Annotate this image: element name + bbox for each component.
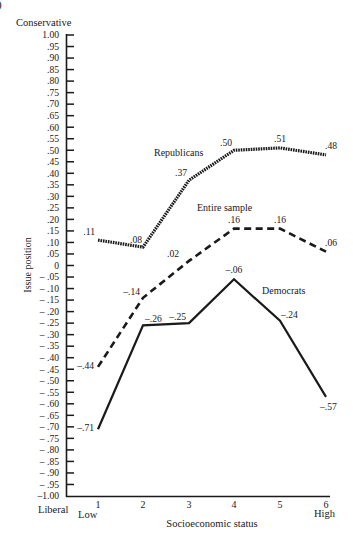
x-high-label: High <box>314 508 336 519</box>
y-tick-label: – .60 <box>39 398 59 409</box>
y-tick-label: .50 <box>47 145 59 156</box>
series-name-label: Republicans <box>154 147 204 158</box>
y-tick-label: .25 <box>47 202 59 213</box>
y-tick-label: – .40 <box>39 352 59 363</box>
x-tick-label: 2 <box>141 499 146 510</box>
data-label: –.25 <box>168 311 186 322</box>
series-name-label: Entire sample <box>197 202 253 213</box>
y-tick-label: 0 <box>54 260 59 271</box>
y-tick-label: – .65 <box>39 410 59 421</box>
y-tick-label: .75 <box>47 87 59 98</box>
y-tick-label: – .05 <box>39 271 59 282</box>
y-tick-label: – .45 <box>39 364 59 375</box>
y-tick-label: – .20 <box>39 306 59 317</box>
y-tick-label: – .15 <box>39 294 59 305</box>
data-label: .50 <box>220 137 232 148</box>
series-name-label: Democrats <box>262 285 305 296</box>
y-tick-label: .20 <box>47 214 59 225</box>
data-label: .11 <box>83 226 95 237</box>
y-tick-label: – .75 <box>39 433 59 444</box>
y-tick-label: –1.00 <box>36 490 59 501</box>
series-line-democrats <box>98 279 326 429</box>
data-label: .51 <box>274 133 286 144</box>
y-tick-label: .85 <box>47 64 59 75</box>
data-label: –.14 <box>122 286 140 297</box>
data-label: –.06 <box>225 264 243 275</box>
y-tick-label: .10 <box>47 237 59 248</box>
data-label: –.57 <box>319 401 337 412</box>
y-tick-label: .80 <box>47 75 59 86</box>
y-tick-label: – .90 <box>39 467 59 478</box>
y-tick-label: .70 <box>47 98 59 109</box>
issue-position-chart: ) Conservative 1.00.95.90.85.80.75.70.65… <box>0 0 353 539</box>
corner-mark: ) <box>0 0 2 11</box>
data-label: .02 <box>167 248 179 259</box>
y-tick-label: – .30 <box>39 329 59 340</box>
y-tick-label: .55 <box>47 133 59 144</box>
y-axis-ticks: 1.00.95.90.85.80.75.70.65.60.55.50.45.40… <box>36 29 74 501</box>
y-tick-label: .90 <box>47 52 59 63</box>
x-low-label: Low <box>78 509 98 520</box>
data-label: .16 <box>274 214 286 225</box>
data-label: –.26 <box>144 313 162 324</box>
y-tick-label: .05 <box>47 248 59 259</box>
y-tick-label: .95 <box>47 41 59 52</box>
x-axis-title: Socioeconomic status <box>166 518 257 529</box>
data-label: .37 <box>175 167 187 178</box>
y-tick-label: .45 <box>47 156 59 167</box>
y-bottom-label: Liberal <box>38 504 68 515</box>
x-axis-ticks: 123456 <box>96 499 329 510</box>
y-tick-label: .40 <box>47 168 59 179</box>
data-label: .16 <box>228 214 240 225</box>
y-tick-label: .35 <box>47 179 59 190</box>
data-label: –.24 <box>280 309 298 320</box>
y-tick-label: – .50 <box>39 375 59 386</box>
data-label: –.71 <box>76 422 94 433</box>
series-line-republicans <box>98 148 326 247</box>
data-label: .06 <box>325 237 337 248</box>
y-top-label: Conservative <box>16 17 72 28</box>
y-tick-label: – .55 <box>39 387 59 398</box>
series-line-entire-sample <box>98 229 326 367</box>
y-tick-label: .30 <box>47 191 59 202</box>
y-tick-label: .65 <box>47 110 59 121</box>
x-tick-label: 5 <box>278 499 283 510</box>
x-tick-label: 4 <box>232 499 237 510</box>
y-tick-label: 1.00 <box>42 29 59 40</box>
x-tick-label: 3 <box>187 499 192 510</box>
y-tick-label: .15 <box>47 225 59 236</box>
data-label: .08 <box>130 234 142 245</box>
y-tick-label: – .35 <box>39 340 59 351</box>
y-tick-label: – .25 <box>39 317 59 328</box>
y-tick-label: – .85 <box>39 456 59 467</box>
y-tick-label: – .10 <box>39 283 59 294</box>
data-label: –.44 <box>76 360 94 371</box>
y-tick-label: .60 <box>47 122 59 133</box>
y-tick-label: – .70 <box>39 421 59 432</box>
y-axis-title: Issue position <box>22 237 33 292</box>
series-layer: .11.08.37.50.51.48Republicans–.44–.14.02… <box>76 133 337 433</box>
y-tick-label: – .95 <box>39 479 59 490</box>
data-label: .48 <box>325 140 337 151</box>
y-tick-label: – .80 <box>39 444 59 455</box>
